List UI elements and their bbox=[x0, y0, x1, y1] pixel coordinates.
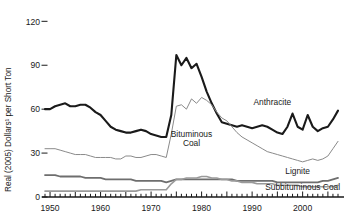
series-label-anthracite: Anthracite bbox=[253, 97, 291, 107]
y-tick-label: 120 bbox=[26, 17, 41, 27]
coal-price-chart: Real (2005) Dollars¹ per Short Ton 03060… bbox=[0, 0, 345, 222]
y-tick-label: 90 bbox=[30, 60, 40, 70]
x-tick-label: 1960 bbox=[91, 203, 110, 213]
x-tick-label: 2000 bbox=[293, 203, 312, 213]
series-label-bituminous-coal-line2: Coal bbox=[183, 138, 200, 148]
x-tick-label: 1970 bbox=[142, 203, 161, 213]
x-tick-label: 1990 bbox=[243, 203, 262, 213]
series-label-bituminous-coal: Bituminous bbox=[171, 129, 212, 139]
chart-canvas: Real (2005) Dollars¹ per Short Ton 03060… bbox=[0, 0, 345, 222]
y-tick-label: 0 bbox=[35, 192, 40, 202]
x-axis bbox=[42, 192, 344, 198]
x-tick-label: 1980 bbox=[192, 203, 211, 213]
series-label-lignite: Lignite bbox=[285, 166, 310, 176]
x-axis-tick-labels: 195019601970198019902000 bbox=[40, 203, 312, 213]
y-tick-label: 30 bbox=[30, 148, 40, 158]
x-tick-label: 1950 bbox=[40, 203, 59, 213]
series-label-subbituminous-coal: Subbituminous Coal bbox=[265, 182, 340, 192]
y-tick-label: 60 bbox=[30, 104, 40, 114]
series-line-anthracite bbox=[45, 55, 338, 137]
y-axis-label: Real (2005) Dollars¹ per Short Ton bbox=[4, 67, 13, 192]
